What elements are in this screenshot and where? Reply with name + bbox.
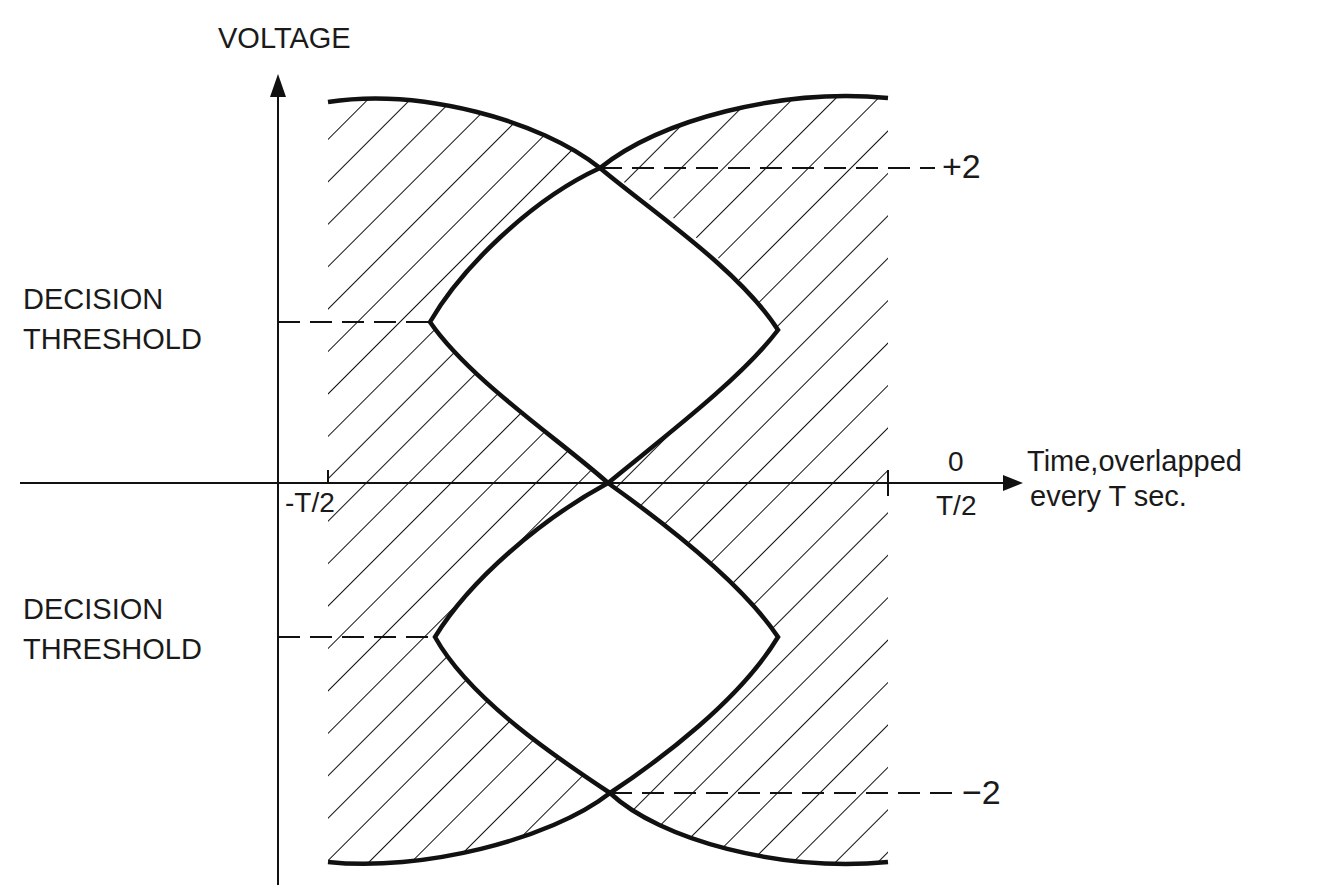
x-axis-label-line2: every T sec. [1030, 480, 1187, 512]
threshold-label-top-line1: DECISION [23, 283, 163, 315]
threshold-label-top-line2: THRESHOLD [23, 323, 202, 355]
x-axis-arrow [1003, 475, 1023, 491]
x-axis-label-line1: Time,overlapped [1027, 445, 1242, 477]
tick-pos-half-t: T/2 [936, 490, 976, 522]
threshold-label-bottom-line1: DECISION [23, 593, 163, 625]
hatched-region [300, 80, 900, 880]
y-axis-label: VOLTAGE [218, 22, 351, 54]
tick-neg-half-t: -T/2 [285, 487, 335, 519]
y-axis-arrow [270, 74, 286, 97]
threshold-label-bottom-line2: THRESHOLD [23, 633, 202, 665]
level-plus2: +2 [942, 150, 981, 182]
tick-zero: 0 [948, 446, 964, 478]
level-minus2: −2 [962, 776, 1001, 808]
